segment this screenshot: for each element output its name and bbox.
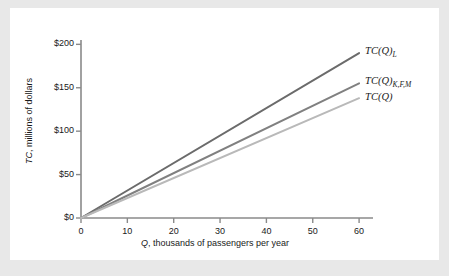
series-label-0: TC(Q)L [365, 45, 397, 59]
series-label-2: TC(Q) [365, 91, 392, 102]
y-axis-title-symbol: TC [24, 152, 34, 164]
series-label-1: TC(Q)K,F,M [365, 75, 411, 89]
x-tick-label-5: 50 [302, 226, 324, 236]
y-tick-label-3: $150 [34, 82, 74, 92]
series-line-0 [81, 53, 359, 218]
y-axis-title-text: , millions of dollars [24, 78, 34, 152]
x-tick-label-2: 20 [163, 226, 185, 236]
y-tick-label-4: $200 [34, 38, 74, 48]
series-label-sub-1: K,F,M [393, 81, 412, 90]
figure-card: $0$50$100$150$200 0102030405060 TC(Q)LTC… [10, 8, 439, 260]
x-tick-label-6: 60 [348, 226, 370, 236]
x-axis-title-symbol: Q [141, 238, 148, 248]
series-label-main-1: TC(Q) [365, 75, 392, 86]
series-label-sub-0: L [393, 50, 397, 59]
x-axis-title-text: , thousands of passengers per year [148, 238, 289, 248]
series-label-main-0: TC(Q) [365, 45, 392, 56]
cost-curves-chart: $0$50$100$150$200 0102030405060 TC(Q)LTC… [10, 8, 439, 260]
x-tick-label-3: 30 [209, 226, 231, 236]
data-series [81, 53, 359, 218]
y-tick-label-0: $0 [34, 212, 74, 222]
y-tick-label-1: $50 [34, 169, 74, 179]
x-axis-title: Q, thousands of passengers per year [65, 238, 365, 248]
series-line-2 [81, 98, 359, 218]
y-axis-title: TC, millions of dollars [24, 56, 34, 186]
series-label-main-2: TC(Q) [365, 91, 392, 102]
y-tick-label-2: $100 [34, 125, 74, 135]
series-line-1 [81, 83, 359, 218]
x-tick-label-4: 40 [255, 226, 277, 236]
x-tick-label-0: 0 [70, 226, 92, 236]
x-tick-label-1: 10 [116, 226, 138, 236]
